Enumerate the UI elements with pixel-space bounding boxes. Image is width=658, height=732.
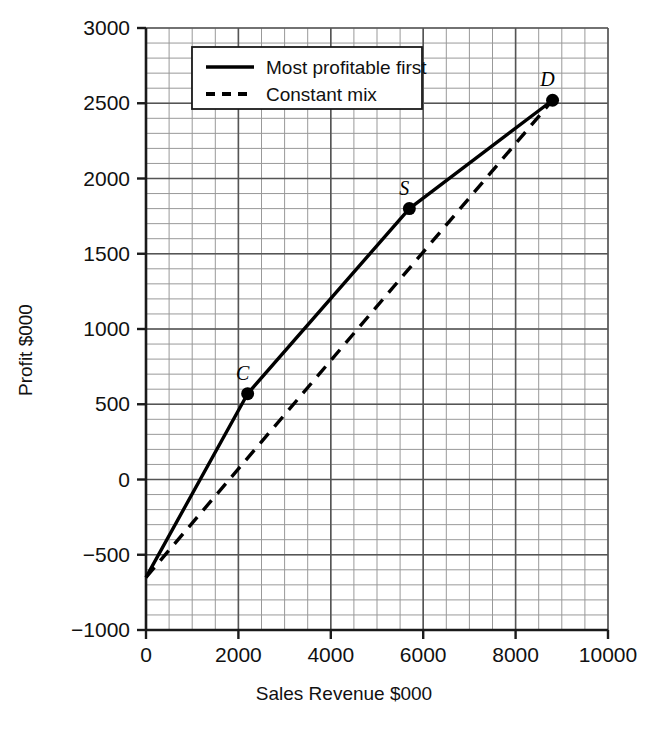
y-axis-tick-label: 0	[118, 468, 130, 491]
y-axis-tick-label: −1000	[71, 618, 130, 641]
x-axis-tick-label: 4000	[307, 643, 354, 666]
y-axis-tick-label: 2500	[83, 91, 130, 114]
y-axis-tick-label: −500	[83, 543, 130, 566]
y-axis-tick-label: 1000	[83, 317, 130, 340]
chart-figure: 300025002000150010005000−500−10000200040…	[0, 0, 658, 732]
x-axis-tick-label: 2000	[215, 643, 262, 666]
x-axis-title: Sales Revenue $000	[256, 683, 432, 704]
x-axis-tick-label: 8000	[492, 643, 539, 666]
data-point-label-s: S	[399, 177, 409, 199]
legend-label-1: Most profitable first	[266, 57, 427, 78]
data-point-marker-d	[546, 94, 559, 107]
data-point-marker-s	[403, 202, 416, 215]
y-axis-tick-label: 500	[95, 392, 130, 415]
chart-legend: Most profitable firstConstant mix	[192, 47, 427, 109]
y-axis-tick-label: 1500	[83, 242, 130, 265]
x-axis-tick-label: 6000	[400, 643, 447, 666]
profit-vs-sales-revenue-chart: 300025002000150010005000−500−10000200040…	[0, 0, 658, 732]
y-axis-tick-label: 3000	[83, 16, 130, 39]
legend-label-2: Constant mix	[266, 84, 377, 105]
data-point-label-c: C	[236, 362, 250, 384]
y-axis-tick-label: 2000	[83, 167, 130, 190]
x-axis-tick-label: 10000	[579, 643, 637, 666]
y-axis-title: Profit $000	[15, 304, 36, 396]
x-axis-tick-label: 0	[140, 643, 152, 666]
data-point-marker-c	[241, 387, 254, 400]
data-point-label-d: D	[539, 68, 555, 90]
